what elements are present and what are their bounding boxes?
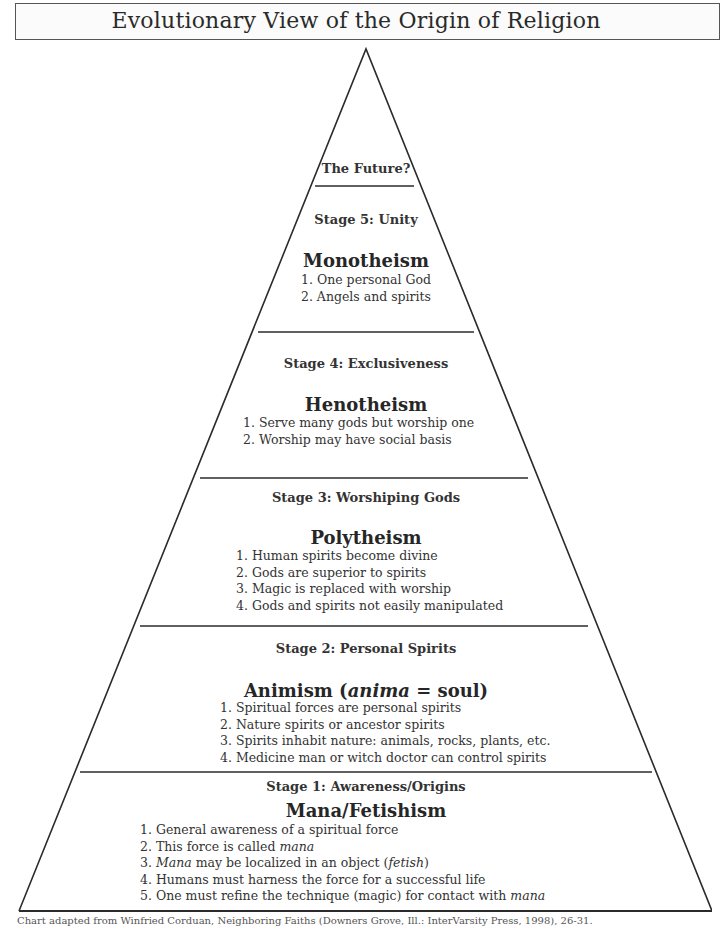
list-item: 2. Angels and spirits — [301, 289, 431, 306]
stage1-heading: Mana/Fetishism — [286, 800, 447, 821]
list-item: 4. Medicine man or witch doctor can cont… — [220, 750, 550, 767]
stage5-label: Stage 5: Unity — [314, 212, 417, 227]
item-text: 2. This force is called — [140, 839, 279, 854]
list-item: 1. Human spirits become divine — [236, 548, 503, 565]
list-item: 5. One must refine the technique (magic)… — [140, 888, 545, 905]
heading-italic-text: anima — [348, 680, 410, 701]
list-item: 1. Spiritual forces are personal spirits — [220, 700, 550, 717]
list-item: 2. This force is called mana — [140, 839, 545, 856]
list-item: 1. One personal God — [301, 272, 431, 289]
list-item: 2. Nature spirits or ancestor spirits — [220, 717, 550, 734]
future-label: The Future? — [322, 161, 411, 176]
list-item: 1. Serve many gods but worship one — [243, 415, 474, 432]
item-text: 5. One must refine the technique (magic)… — [140, 888, 510, 903]
list-item: 4. Gods and spirits not easily manipulat… — [236, 598, 503, 615]
list-item: 3. Magic is replaced with worship — [236, 581, 503, 598]
item-text: ) — [424, 855, 429, 870]
stage2-label: Stage 2: Personal Spirits — [276, 641, 456, 656]
stage2-list: 1. Spiritual forces are personal spirits… — [220, 700, 550, 766]
list-item: 3. Mana may be localized in an object (f… — [140, 855, 545, 872]
list-item: 4. Humans must harness the force for a s… — [140, 872, 545, 889]
stage2-heading: Animism (anima = soul) — [244, 680, 488, 701]
stage4-heading: Henotheism — [305, 394, 427, 415]
heading-text: Animism ( — [244, 680, 348, 701]
list-item: 2. Worship may have social basis — [243, 432, 474, 449]
item-italic-text: mana — [510, 888, 545, 903]
stage4-list: 1. Serve many gods but worship one 2. Wo… — [243, 415, 474, 448]
stage1-list: 1. General awareness of a spiritual forc… — [140, 822, 545, 905]
stage3-list: 1. Human spirits become divine 2. Gods a… — [236, 548, 503, 614]
stage1-label: Stage 1: Awareness/Origins — [266, 779, 465, 794]
item-italic-text: Mana — [156, 855, 192, 870]
list-item: 2. Gods are superior to spirits — [236, 565, 503, 582]
item-text: 3. — [140, 855, 156, 870]
item-italic-text: fetish — [388, 855, 424, 870]
stage3-heading: Polytheism — [310, 527, 421, 548]
stage5-list: 1. One personal God 2. Angels and spirit… — [301, 272, 431, 305]
stage4-label: Stage 4: Exclusiveness — [284, 356, 448, 371]
stage5-heading: Monotheism — [303, 250, 429, 271]
heading-text: = soul) — [410, 680, 488, 701]
item-text: may be localized in an object ( — [192, 855, 389, 870]
source-citation: Chart adapted from Winfried Corduan, Nei… — [17, 915, 593, 926]
list-item: 1. General awareness of a spiritual forc… — [140, 822, 545, 839]
item-italic-text: mana — [279, 839, 314, 854]
stage3-label: Stage 3: Worshiping Gods — [272, 490, 460, 505]
list-item: 3. Spirits inhabit nature: animals, rock… — [220, 733, 550, 750]
